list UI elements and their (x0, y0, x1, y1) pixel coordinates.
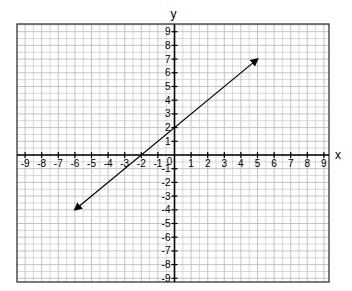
y-tick-label: -4 (162, 204, 171, 215)
x-tick-label: -3 (120, 158, 129, 169)
x-axis-label: x (335, 148, 341, 162)
x-tick-label: 1 (188, 158, 194, 169)
x-tick-label: 2 (205, 158, 211, 169)
y-tick-label: -6 (162, 232, 171, 243)
y-tick-label: 7 (165, 54, 171, 65)
y-tick-label: 6 (165, 67, 171, 78)
y-tick-label: -3 (162, 191, 171, 202)
y-axis-label: y (171, 7, 177, 21)
x-tick-label: -7 (54, 158, 63, 169)
x-tick-label: -9 (21, 158, 30, 169)
y-tick-label: -5 (162, 218, 171, 229)
y-tick-label: 8 (165, 40, 171, 51)
y-tick-label: 1 (165, 136, 171, 147)
x-tick-label: 5 (255, 158, 261, 169)
y-tick-label: -1 (162, 163, 171, 174)
y-tick-label: 4 (165, 95, 171, 106)
y-tick-label: -2 (162, 177, 171, 188)
y-tick-label: -9 (162, 273, 171, 284)
x-tick-label: -8 (37, 158, 46, 169)
x-tick-label: -5 (87, 158, 96, 169)
y-tick-label: 5 (165, 81, 171, 92)
y-tick-label: 9 (165, 26, 171, 37)
x-tick-label: -2 (137, 158, 146, 169)
coordinate-plane: xy-9-8-7-6-5-4-3-2-11234567890-9-8-7-6-5… (0, 0, 352, 291)
x-tick-label: -6 (70, 158, 79, 169)
x-tick-label: 8 (305, 158, 311, 169)
x-tick-label: 3 (222, 158, 228, 169)
y-tick-label: 3 (165, 108, 171, 119)
x-tick-label: 7 (288, 158, 294, 169)
x-tick-label: -4 (104, 158, 113, 169)
y-tick-label: -7 (162, 245, 171, 256)
y-tick-label: -8 (162, 259, 171, 270)
x-tick-label: 9 (321, 158, 327, 169)
x-tick-label: 6 (271, 158, 277, 169)
x-tick-label: 4 (238, 158, 244, 169)
